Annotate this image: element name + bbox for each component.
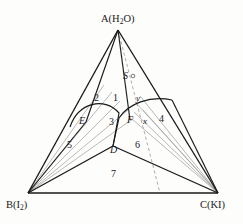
region-label-3: 3: [109, 117, 114, 127]
tieline-c-5: [143, 110, 218, 193]
region-label-2: 2: [94, 93, 99, 103]
tieline-group-left: [28, 85, 134, 193]
tieline-group-right: [132, 96, 218, 193]
region-label-7: 7: [111, 169, 116, 179]
point-label-f: F: [127, 115, 133, 125]
region-label-4: 4: [159, 114, 164, 124]
region-label-5: 5: [67, 140, 72, 150]
diagram-canvas: [0, 0, 243, 224]
vertex-label-b: B(I2): [6, 200, 27, 211]
tieline-c-1: [140, 96, 218, 193]
boundary-c-d: [113, 146, 218, 193]
point-label-x: x: [143, 117, 147, 126]
point-label-y: y: [136, 94, 140, 103]
point-label-d: D: [110, 145, 117, 155]
tieline-b-3: [28, 101, 120, 193]
point-label-e: E: [79, 116, 85, 126]
vertex-label-c: C(KI): [200, 200, 225, 211]
s-point-marker: [131, 74, 135, 78]
boundary-c-arc: [172, 100, 218, 193]
triangle-side-ac: [118, 30, 218, 193]
vertex-label-a: A(H2O): [101, 14, 135, 25]
tieline-c-4: [132, 119, 218, 193]
region-label-6: 6: [135, 140, 140, 150]
boundary-b-e: [28, 122, 86, 193]
ternary-phase-diagram: A(H2O) B(I2) C(KI) S E F D x y 1 2 3 4 5…: [0, 0, 243, 224]
point-label-s: S: [123, 71, 128, 81]
region-label-1: 1: [113, 93, 118, 103]
